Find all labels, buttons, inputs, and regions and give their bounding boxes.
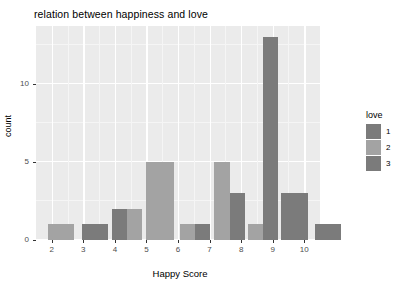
bar (281, 193, 308, 240)
bars-layer (36, 26, 320, 240)
x-axis-tick (83, 240, 84, 243)
x-axis-tick (304, 240, 305, 243)
x-axis-tick-label: 9 (263, 245, 283, 254)
bar (263, 37, 278, 240)
x-axis-tick (273, 240, 274, 243)
plot-panel (36, 26, 320, 240)
x-axis-tick-label: 4 (105, 245, 125, 254)
bar (230, 193, 245, 240)
legend-item: 1 (366, 124, 406, 139)
legend: love 123 (366, 110, 406, 172)
y-axis-tick (33, 240, 36, 241)
bar (315, 224, 341, 240)
legend-swatch (366, 156, 381, 171)
x-axis-tick (146, 240, 147, 243)
y-axis-tick (33, 162, 36, 163)
bar (195, 224, 210, 240)
legend-items: 123 (366, 124, 406, 171)
x-axis-tick (210, 240, 211, 243)
x-axis-title: Happy Score (35, 268, 325, 279)
y-axis-tick-label: 10 (3, 79, 29, 88)
x-axis-tick (178, 240, 179, 243)
bar (146, 162, 174, 240)
legend-swatch (366, 124, 381, 139)
legend-item-label: 3 (386, 159, 390, 168)
x-axis-tick-label: 10 (294, 245, 314, 254)
bar (112, 209, 127, 240)
x-axis-tick-label: 3 (73, 245, 93, 254)
y-axis-tick-label: 5 (3, 157, 29, 166)
x-axis-tick-label: 5 (136, 245, 156, 254)
x-axis-tick (52, 240, 53, 243)
legend-title: love (366, 110, 406, 120)
x-axis-tick (115, 240, 116, 243)
x-axis-tick-label: 8 (231, 245, 251, 254)
legend-swatch (366, 140, 381, 155)
bar (180, 224, 195, 240)
y-axis-title: count (3, 115, 13, 137)
x-axis-tick-label: 2 (42, 245, 62, 254)
y-axis-tick-label: 0 (3, 235, 29, 244)
legend-item: 3 (366, 156, 406, 171)
chart-figure: relation between happiness and love coun… (0, 0, 407, 288)
chart-title: relation between happiness and love (34, 8, 208, 20)
bar (248, 224, 263, 240)
legend-item-label: 1 (386, 127, 390, 136)
x-axis-tick-label: 6 (168, 245, 188, 254)
legend-item-label: 2 (386, 143, 390, 152)
x-axis-tick-label: 7 (200, 245, 220, 254)
y-axis-tick (33, 84, 36, 85)
bar (48, 224, 74, 240)
x-axis-tick (241, 240, 242, 243)
bar (82, 224, 108, 240)
legend-item: 2 (366, 140, 406, 155)
bar (127, 209, 142, 240)
bar (214, 162, 230, 240)
